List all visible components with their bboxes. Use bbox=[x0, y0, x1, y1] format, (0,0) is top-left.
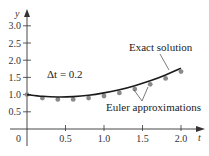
euler-point bbox=[148, 82, 153, 87]
ticks: 0.51.01.52.00.51.01.52.02.53.0 bbox=[9, 20, 188, 144]
x-tick-label: 1.5 bbox=[136, 133, 149, 144]
origin-label: 0 bbox=[16, 133, 21, 144]
y-tick-label: 1.0 bbox=[9, 89, 22, 100]
y-axis-arrow-icon bbox=[24, 9, 30, 17]
x-tick-label: 2.0 bbox=[175, 133, 188, 144]
euler-approximations-label: Euler approximations bbox=[106, 101, 201, 113]
euler-point bbox=[86, 96, 91, 101]
euler-point bbox=[117, 90, 122, 95]
euler-point bbox=[163, 76, 168, 81]
x-tick-label: 1.0 bbox=[98, 133, 111, 144]
euler-method-chart: 0.51.01.52.00.51.01.52.02.53.0 y t 0 Δt … bbox=[0, 0, 209, 156]
euler-point bbox=[179, 69, 184, 74]
annotations: y t 0 Δt = 0.2 Exact solution Euler appr… bbox=[14, 8, 201, 144]
y-tick-label: 0.5 bbox=[9, 106, 22, 117]
y-axis-label: y bbox=[14, 8, 20, 19]
euler-leader-line-2 bbox=[142, 87, 148, 101]
x-axis-label: t bbox=[198, 132, 201, 143]
x-tick-label: 0.5 bbox=[59, 133, 72, 144]
euler-point bbox=[102, 94, 107, 99]
y-tick-label: 1.5 bbox=[9, 72, 22, 83]
y-tick-label: 2.5 bbox=[9, 38, 22, 49]
y-tick-label: 2.0 bbox=[9, 55, 22, 66]
exact-solution-label: Exact solution bbox=[129, 41, 193, 53]
delta-t-label: Δt = 0.2 bbox=[47, 68, 83, 80]
euler-leader-line-1 bbox=[134, 90, 142, 101]
y-tick-label: 3.0 bbox=[9, 20, 22, 31]
euler-point bbox=[71, 97, 76, 102]
axes bbox=[10, 9, 205, 146]
exact-leader-line bbox=[160, 54, 169, 70]
